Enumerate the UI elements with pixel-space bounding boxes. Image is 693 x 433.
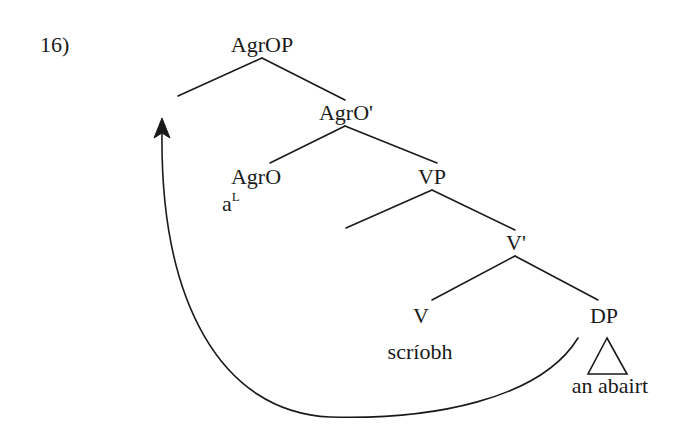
branch-vp-vbar: [432, 190, 515, 230]
node-agrop: AgrOP: [231, 34, 293, 56]
node-vp: VP: [418, 166, 446, 188]
example-number: 16): [40, 34, 69, 56]
agro-content-base: a: [222, 191, 232, 216]
syntax-tree-lines: [0, 0, 693, 433]
branch-vp-spec: [346, 190, 432, 228]
node-v-bar: V': [506, 232, 526, 254]
branch-agrop-spec: [178, 58, 262, 96]
branch-vbar-dp: [515, 256, 598, 300]
branch-agrop-agrobar: [262, 58, 345, 100]
node-dp: DP: [590, 305, 618, 327]
node-agro-bar: AgrO': [319, 102, 373, 124]
branch-agrobar-vp: [345, 126, 437, 163]
node-agro: AgrO: [231, 166, 281, 188]
agro-content-superscript: L: [232, 189, 240, 204]
movement-arrow-curve: [162, 132, 578, 417]
node-agro-content: aL: [222, 192, 240, 215]
dp-triangle: [588, 338, 627, 374]
node-v-content: scríobh: [388, 341, 453, 363]
node-v: V: [413, 305, 429, 327]
branch-vbar-v: [432, 256, 515, 300]
branch-agrobar-agro: [270, 126, 345, 163]
node-dp-content: an abairt: [572, 375, 648, 397]
